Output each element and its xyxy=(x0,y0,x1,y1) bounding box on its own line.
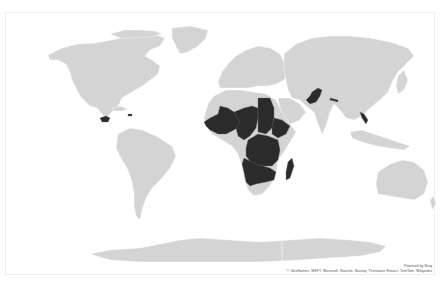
region-central-east-africa[interactable] xyxy=(246,134,280,166)
land-greenland xyxy=(172,26,208,54)
world-map[interactable] xyxy=(0,0,440,284)
powered-by-label: Powered by Bing xyxy=(404,264,432,268)
land-north-america xyxy=(48,33,165,118)
land-japan xyxy=(396,70,408,94)
region-madagascar[interactable] xyxy=(286,158,294,180)
region-guatemala-honduras[interactable] xyxy=(100,116,110,122)
land-europe xyxy=(218,46,288,88)
copyright-text: © GeoNames, MSFT, Microsoft, Navinfo, Na… xyxy=(287,269,432,273)
land-australia xyxy=(376,160,428,200)
region-haiti[interactable] xyxy=(128,114,132,116)
land-asia xyxy=(284,36,414,134)
land-south-america xyxy=(116,128,176,220)
land-indonesia xyxy=(350,130,410,150)
land-antarctica xyxy=(90,238,386,262)
region-sudan-south-sudan[interactable] xyxy=(258,98,274,134)
land-new-zealand xyxy=(430,196,436,210)
